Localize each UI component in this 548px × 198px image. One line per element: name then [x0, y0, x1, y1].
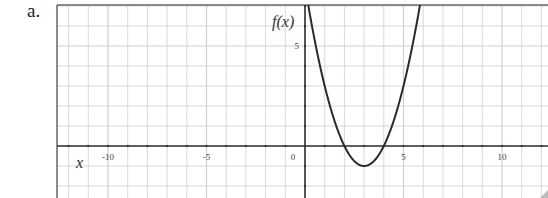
y-axis-label: f(x) — [272, 13, 294, 31]
x-tick — [186, 145, 188, 147]
y-tick — [304, 25, 306, 27]
x-tick-label: 10 — [498, 152, 508, 162]
y-tick — [304, 145, 306, 147]
x-tick — [324, 145, 326, 147]
x-tick-label: 5 — [401, 152, 406, 162]
x-tick — [107, 145, 109, 147]
x-tick — [540, 145, 542, 147]
x-axis-label: x — [75, 154, 83, 171]
y-tick — [304, 45, 306, 47]
grid — [57, 5, 548, 198]
x-tick — [422, 145, 424, 147]
x-tick — [501, 145, 503, 147]
y-tick — [304, 65, 306, 67]
x-tick — [521, 145, 523, 147]
x-tick — [87, 145, 89, 147]
x-tick-label: -5 — [203, 152, 211, 162]
function-graph: -10-505105xf(x) — [0, 0, 548, 198]
x-tick — [206, 145, 208, 147]
y-tick — [304, 105, 306, 107]
y-tick — [304, 125, 306, 127]
x-tick — [403, 145, 405, 147]
x-tick — [245, 145, 247, 147]
x-tick — [265, 145, 267, 147]
x-tick — [166, 145, 168, 147]
x-tick — [68, 145, 70, 147]
y-tick-label: 5 — [295, 41, 300, 51]
y-tick — [304, 165, 306, 167]
x-tick — [462, 145, 464, 147]
x-tick — [284, 145, 286, 147]
x-tick — [225, 145, 227, 147]
x-tick-label: 0 — [291, 152, 296, 162]
x-tick — [481, 145, 483, 147]
y-tick — [304, 5, 306, 7]
y-tick — [304, 185, 306, 187]
y-tick — [304, 85, 306, 87]
x-tick-label: -10 — [102, 152, 114, 162]
x-tick — [146, 145, 148, 147]
x-tick — [363, 145, 365, 147]
x-tick — [127, 145, 129, 147]
x-tick — [442, 145, 444, 147]
